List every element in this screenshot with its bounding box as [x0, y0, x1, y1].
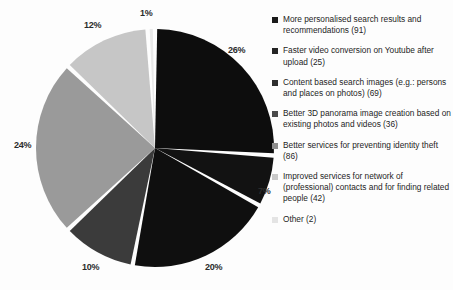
pie-label-video-conversion: 7% — [258, 186, 271, 196]
legend-swatch-icon — [272, 217, 278, 223]
pie-label-3d-panorama: 10% — [82, 262, 99, 272]
legend-swatch-icon — [272, 17, 278, 23]
pie-label-content-based-search: 20% — [205, 262, 222, 272]
legend-swatch-icon — [272, 143, 278, 149]
legend-item-label: More personalised search results and rec… — [283, 14, 451, 36]
legend-item[interactable]: Faster video conversion on Youtube after… — [272, 45, 453, 67]
legend-swatch-icon — [272, 111, 278, 117]
pie-chart-plot-area: 1%26%7%20%10%24%12% — [0, 0, 280, 290]
chart-legend: More personalised search results and rec… — [272, 14, 453, 280]
legend-item-label: Other (2) — [283, 214, 316, 225]
legend-swatch-icon — [272, 174, 278, 180]
legend-item-label: Faster video conversion on Youtube after… — [283, 45, 451, 67]
legend-item-label: Better services for preventing identity … — [283, 140, 451, 162]
legend-item[interactable]: More personalised search results and rec… — [272, 14, 453, 36]
pie-slice-group — [36, 29, 274, 267]
legend-item-label: Better 3D panorama image creation based … — [283, 108, 451, 130]
legend-item[interactable]: Content based search images (e.g.: perso… — [272, 77, 453, 99]
pie-label-network-contacts: 12% — [84, 20, 101, 30]
legend-item-label: Improved services for network of (profes… — [283, 171, 451, 205]
legend-item[interactable]: Better 3D panorama image creation based … — [272, 108, 453, 130]
pie-slice[interactable] — [155, 29, 274, 153]
pie-label-personalised-search: 26% — [228, 45, 245, 55]
legend-item[interactable]: Improved services for network of (profes… — [272, 171, 453, 205]
pie-label-identity-theft: 24% — [14, 140, 31, 150]
legend-item-label: Content based search images (e.g.: perso… — [283, 77, 451, 99]
pie-label-other: 1% — [140, 8, 153, 18]
legend-swatch-icon — [272, 80, 278, 86]
pie-chart-svg — [0, 0, 280, 290]
legend-swatch-icon — [272, 48, 278, 54]
pie-chart-figure: 1%26%7%20%10%24%12% More personalised se… — [0, 0, 453, 290]
legend-item[interactable]: Better services for preventing identity … — [272, 140, 453, 162]
legend-item[interactable]: Other (2) — [272, 214, 453, 225]
